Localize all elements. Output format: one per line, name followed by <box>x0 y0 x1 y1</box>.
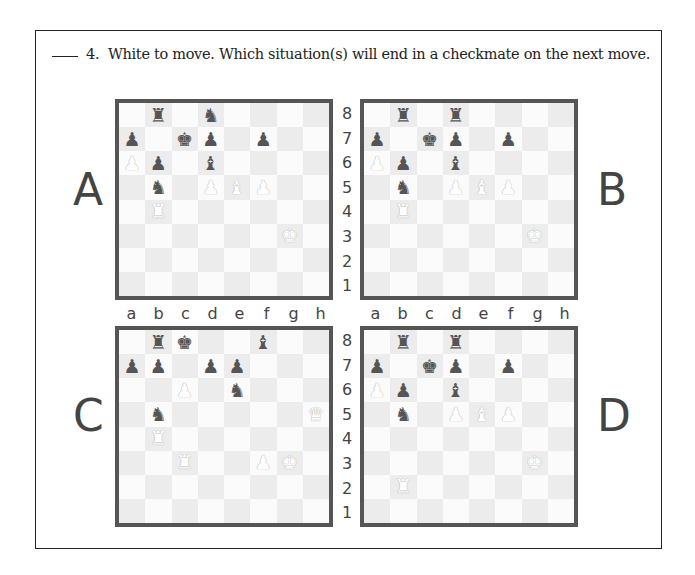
file-label: e <box>470 304 497 323</box>
square-g2 <box>277 248 303 272</box>
white-bishop-icon: ♝ <box>474 405 491 424</box>
square-d6 <box>198 378 224 402</box>
square-c1 <box>417 499 443 523</box>
square-e8 <box>224 330 250 354</box>
square-d7: ♟ <box>198 127 224 151</box>
question-line: 4. White to move. Which situation(s) wil… <box>52 46 650 62</box>
square-a1 <box>364 272 390 296</box>
square-f4 <box>495 200 521 224</box>
square-b3 <box>145 224 171 248</box>
white-queen-icon: ♛ <box>307 405 324 424</box>
square-d6: ♝ <box>443 378 469 402</box>
square-d5: ♟ <box>443 402 469 426</box>
square-d1 <box>198 272 224 296</box>
rank-label: 2 <box>340 477 354 502</box>
square-g6 <box>522 151 548 175</box>
file-labels-left: a b c d e f g h <box>118 304 334 323</box>
square-g2 <box>522 475 548 499</box>
square-a2 <box>119 248 145 272</box>
square-b8: ♜ <box>390 103 416 127</box>
rank-label: 1 <box>340 274 354 299</box>
square-h6 <box>303 378 329 402</box>
square-e7: ♟ <box>224 354 250 378</box>
square-b2 <box>145 248 171 272</box>
square-h6 <box>303 151 329 175</box>
square-g7 <box>277 354 303 378</box>
square-b2 <box>145 475 171 499</box>
black-pawn-icon: ♟ <box>255 130 272 149</box>
chessboard-c: ♜♚♝♟♟♟♟♟♞♞♛♜♜♟♚ <box>115 326 333 527</box>
square-c2 <box>417 248 443 272</box>
square-d3 <box>443 224 469 248</box>
file-label: e <box>226 304 253 323</box>
square-b4: ♜ <box>145 427 171 451</box>
square-g6 <box>277 378 303 402</box>
square-a5 <box>364 175 390 199</box>
square-c4 <box>417 427 443 451</box>
black-king-icon: ♚ <box>176 333 193 352</box>
square-h5 <box>303 175 329 199</box>
square-h1 <box>548 499 574 523</box>
answer-blank[interactable] <box>52 56 78 57</box>
rank-labels-top: 8 7 6 5 4 3 2 1 <box>340 102 354 299</box>
square-h1 <box>303 272 329 296</box>
square-e2 <box>224 248 250 272</box>
square-h7 <box>303 354 329 378</box>
square-e2 <box>469 475 495 499</box>
white-pawn-icon: ♟ <box>500 178 517 197</box>
square-a6: ♟ <box>119 151 145 175</box>
square-a2 <box>364 248 390 272</box>
black-king-icon: ♚ <box>421 130 438 149</box>
square-h2 <box>548 248 574 272</box>
black-pawn-icon: ♟ <box>447 130 464 149</box>
square-f8 <box>495 330 521 354</box>
file-label: f <box>497 304 524 323</box>
square-h2 <box>548 475 574 499</box>
square-a2 <box>364 475 390 499</box>
square-e5: ♝ <box>224 175 250 199</box>
black-pawn-icon: ♟ <box>150 154 167 173</box>
file-label: g <box>280 304 307 323</box>
square-d3 <box>198 451 224 475</box>
label-a: A <box>73 164 103 215</box>
square-f2 <box>495 248 521 272</box>
white-pawn-icon: ♟ <box>447 178 464 197</box>
square-f3 <box>495 451 521 475</box>
square-d3 <box>198 224 224 248</box>
square-b5: ♞ <box>145 402 171 426</box>
square-d8 <box>198 330 224 354</box>
square-g1 <box>522 272 548 296</box>
square-a2 <box>119 475 145 499</box>
white-rook-icon: ♜ <box>395 202 412 221</box>
square-b3 <box>145 451 171 475</box>
black-rook-icon: ♜ <box>447 106 464 125</box>
square-h6 <box>548 378 574 402</box>
square-c2 <box>172 248 198 272</box>
square-f3 <box>250 224 276 248</box>
square-d2 <box>198 475 224 499</box>
square-f1 <box>250 499 276 523</box>
square-b2 <box>390 248 416 272</box>
square-c5 <box>172 175 198 199</box>
square-e7 <box>224 127 250 151</box>
square-h4 <box>303 427 329 451</box>
square-c7: ♚ <box>417 354 443 378</box>
rank-label: 5 <box>340 403 354 428</box>
square-f6 <box>250 151 276 175</box>
square-c6: ♟ <box>172 378 198 402</box>
white-pawn-icon: ♟ <box>500 405 517 424</box>
square-h3 <box>303 451 329 475</box>
white-pawn-icon: ♟ <box>255 178 272 197</box>
rank-label: 6 <box>340 378 354 403</box>
black-pawn-icon: ♟ <box>124 357 141 376</box>
square-e4 <box>469 200 495 224</box>
white-pawn-icon: ♟ <box>369 154 386 173</box>
square-f7 <box>250 354 276 378</box>
square-a3 <box>119 451 145 475</box>
black-pawn-icon: ♟ <box>202 357 219 376</box>
label-d: D <box>597 390 631 441</box>
square-c3: ♜ <box>172 451 198 475</box>
square-c4 <box>172 200 198 224</box>
square-g4 <box>522 200 548 224</box>
white-pawn-icon: ♟ <box>176 381 193 400</box>
